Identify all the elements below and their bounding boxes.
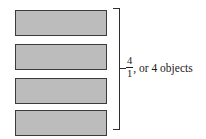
fraction-diagram: 4 1 , or 4 objects (0, 0, 206, 139)
fraction-caption-text: , or 4 objects (133, 62, 192, 74)
fraction-label: 4 1 , or 4 objects (126, 56, 193, 79)
object-bar-1 (15, 10, 107, 36)
fraction-numerator: 4 (126, 56, 133, 67)
fraction-denominator: 1 (126, 68, 133, 79)
object-bar-3 (15, 78, 107, 104)
object-bar-2 (15, 44, 107, 70)
fraction: 4 1 (126, 56, 133, 79)
object-bar-4 (15, 110, 107, 136)
grouping-bracket (113, 8, 120, 130)
